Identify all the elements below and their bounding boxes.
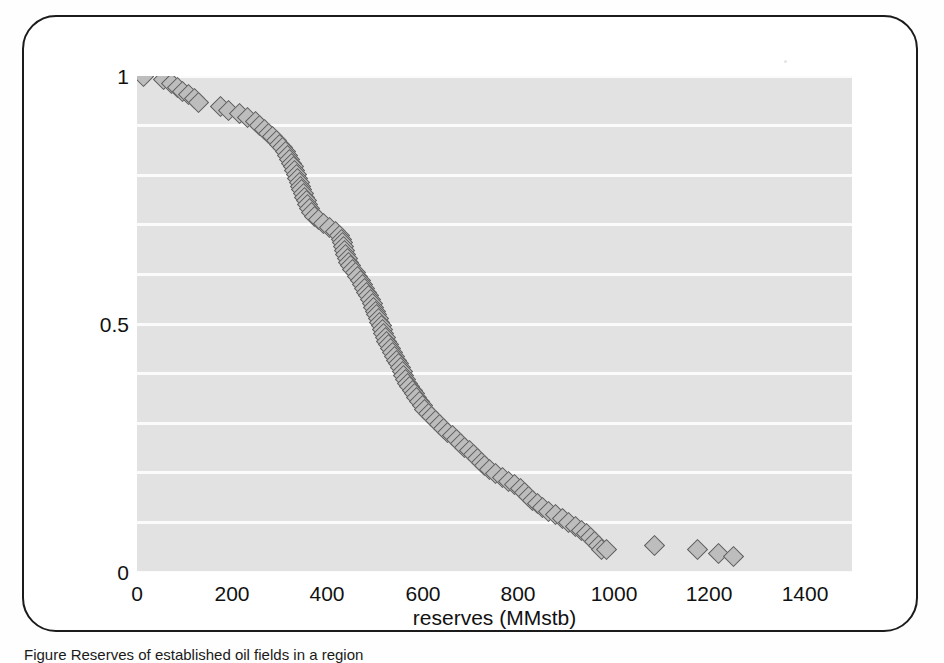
x-tick-label-1400: 1400 <box>782 583 829 604</box>
data-point-marker <box>644 535 665 556</box>
scatter-series <box>137 76 852 572</box>
figure-frame: 1 0.5 0 0 200 400 600 800 1000 1200 1400… <box>22 15 918 632</box>
y-tick-label-0: 0 <box>84 562 129 583</box>
x-axis-title: reserves (MMstb) <box>137 606 852 630</box>
data-point-marker <box>137 76 154 87</box>
plot-area <box>137 76 852 572</box>
x-tick-label-600: 600 <box>405 583 440 604</box>
x-tick-label-0: 0 <box>131 583 143 604</box>
y-tick-label-1: 1 <box>84 66 129 87</box>
x-tick-label-800: 800 <box>500 583 535 604</box>
data-point-marker <box>686 539 707 560</box>
x-tick-label-1200: 1200 <box>686 583 733 604</box>
x-tick-label-400: 400 <box>309 583 344 604</box>
figure-caption: Figure Reserves of established oil field… <box>24 646 914 663</box>
data-point-marker <box>723 546 744 567</box>
x-tick-label-1000: 1000 <box>591 583 638 604</box>
scan-speck <box>784 60 787 63</box>
y-tick-label-0-5: 0.5 <box>64 314 129 335</box>
x-tick-label-200: 200 <box>214 583 249 604</box>
